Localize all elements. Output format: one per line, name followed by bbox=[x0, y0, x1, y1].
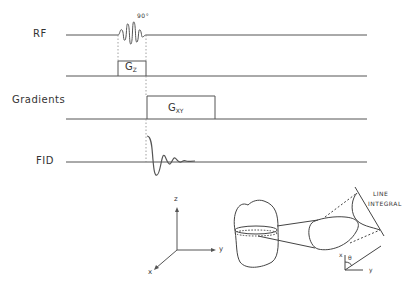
line-integral-profile bbox=[352, 193, 380, 230]
theta-label: θ bbox=[348, 254, 352, 261]
flip-angle-label: 90° bbox=[137, 12, 149, 19]
x-axis-label: x bbox=[148, 268, 152, 276]
gxy-label: GXY bbox=[168, 102, 184, 113]
diagram-canvas bbox=[0, 0, 418, 289]
z-axis-label: z bbox=[174, 195, 178, 203]
slice-ellipse bbox=[235, 226, 277, 234]
rf-pulse bbox=[118, 22, 146, 44]
fid-label: FID bbox=[36, 155, 54, 166]
y-axis-label: y bbox=[219, 245, 223, 253]
line-integral-label-1: LINE bbox=[373, 190, 388, 197]
gz-label: GZ bbox=[125, 61, 137, 72]
rf-label: RF bbox=[33, 28, 47, 39]
proj-y-label: y bbox=[369, 266, 373, 273]
proj-x-label: x bbox=[339, 251, 343, 258]
xyz-axes bbox=[154, 207, 216, 270]
gradients-label: Gradients bbox=[12, 94, 65, 105]
line-integral-label-2: INTEGRAL bbox=[368, 200, 402, 207]
slice-image bbox=[309, 217, 359, 250]
fid-signal bbox=[147, 136, 195, 175]
